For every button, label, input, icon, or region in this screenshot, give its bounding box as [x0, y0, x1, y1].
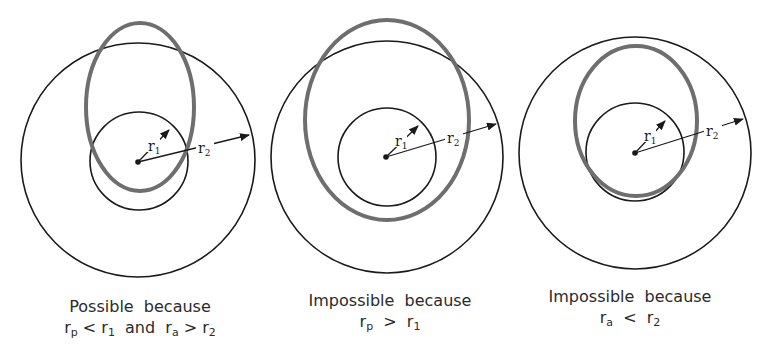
caption-impossible-rp: Impossible because rp > r1 [290, 290, 490, 332]
panel-possible: r1 r2 [21, 23, 255, 277]
panel-impossible-ra: r1 r2 [519, 37, 751, 269]
orbit-ellipse [575, 46, 697, 196]
caption-line1: Possible because [40, 296, 240, 317]
caption-line1: Impossible because [530, 286, 730, 307]
caption-possible: Possible because rp < r1 and ra > r2 [40, 296, 240, 338]
orbit-ellipse [86, 23, 194, 191]
caption-line1: Impossible because [290, 290, 490, 311]
caption-line2: rp > r1 [290, 311, 490, 332]
caption-line2: rp < r1 and ra > r2 [40, 317, 240, 338]
orbit-ellipse [305, 20, 469, 220]
panel-impossible-rp: r1 r2 [271, 20, 503, 273]
caption-impossible-ra: Impossible because ra < r2 [530, 286, 730, 328]
caption-line2: ra < r2 [530, 307, 730, 328]
